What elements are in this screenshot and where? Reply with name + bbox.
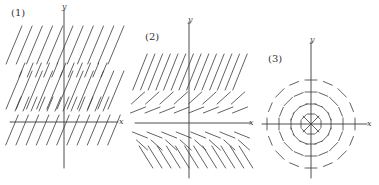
slope-segment [77, 26, 93, 64]
slope-segment [139, 146, 153, 168]
slope-segment [203, 92, 216, 104]
slope-segment [98, 26, 114, 64]
slope-segment [6, 71, 22, 109]
slope-segment [39, 97, 45, 111]
slope-segment [212, 146, 226, 168]
slope-segment [269, 103, 273, 112]
slope-segment [217, 54, 231, 90]
slope-segment [322, 135, 329, 142]
slope-segment [291, 128, 294, 135]
slope-segment [276, 89, 284, 97]
slope-segment [145, 107, 160, 113]
slope-segment [171, 54, 185, 90]
slope-segment [47, 26, 63, 64]
slope-segment [350, 136, 354, 145]
slope-segment [87, 115, 100, 145]
slope-segment [231, 92, 244, 104]
slope-segment [148, 54, 162, 90]
slope-segment [225, 54, 239, 90]
slope-segment [162, 132, 177, 138]
slope-segment [339, 132, 343, 141]
slope-segment [136, 140, 147, 150]
panel-1-label: (1) [11, 8, 25, 18]
slope-segment [77, 115, 90, 145]
slope-segment [26, 26, 42, 64]
slope-segment [315, 141, 322, 144]
panel-3-label: (3) [268, 54, 282, 64]
slope-segment [160, 92, 173, 104]
slope-segment [284, 142, 292, 150]
slope-segment [291, 113, 294, 120]
slope-segment [238, 140, 249, 150]
slope-segment [67, 115, 80, 145]
panel-3-x-axis-label: x [367, 120, 372, 128]
slope-segment [350, 103, 354, 112]
figure-canvas [0, 0, 379, 185]
panel-2-x-axis-label: x [249, 119, 254, 127]
slope-segment [280, 107, 284, 116]
slope-segment [290, 163, 299, 167]
slope-segment [93, 63, 99, 77]
slope-segment [98, 71, 114, 109]
slope-segment [174, 107, 189, 113]
slope-segment [85, 63, 91, 77]
slope-segment [164, 54, 178, 90]
slope-segment [218, 107, 233, 113]
slope-segment [329, 142, 337, 150]
panel-3-y-axis-label: y [310, 36, 315, 44]
slope-segment [67, 26, 83, 64]
slope-segment [67, 71, 83, 109]
slope-segment [160, 107, 175, 113]
panel-1-x-axis-label: x [119, 118, 124, 126]
slope-segment [151, 140, 162, 150]
slope-segment [131, 107, 146, 113]
slope-segment [88, 26, 104, 64]
slope-segment [203, 107, 218, 113]
slope-segment [239, 146, 253, 168]
slope-segment [179, 54, 193, 90]
slope-segment [300, 104, 307, 107]
slope-segment [133, 54, 147, 90]
slope-segment [203, 146, 217, 168]
panel-1-direction-field [6, 10, 124, 168]
slope-segment [224, 140, 235, 150]
slope-segment [26, 115, 39, 145]
panel-2-y-axis-label: y [188, 16, 193, 24]
slope-segment [16, 115, 29, 145]
slope-segment [174, 92, 187, 104]
slope-segment [322, 106, 329, 113]
slope-segment [57, 115, 70, 145]
slope-segment [140, 54, 154, 90]
slope-segment [47, 115, 60, 145]
slope-segment [133, 132, 148, 138]
slope-segment [55, 97, 61, 111]
slope-segment [147, 132, 162, 138]
slope-segment [284, 97, 292, 105]
slope-segment [339, 107, 343, 116]
slope-segment [71, 97, 77, 111]
slope-segment [328, 113, 331, 120]
slope-segment [15, 97, 21, 111]
slope-segment [148, 146, 162, 168]
slope-segment [108, 71, 124, 109]
slope-segment [87, 97, 93, 111]
slope-segment [217, 92, 230, 104]
slope-segment [235, 132, 250, 138]
slope-segment [221, 146, 235, 168]
slope-segment [166, 140, 177, 150]
slope-segment [98, 115, 111, 145]
slope-segment [269, 136, 273, 145]
slope-segment [290, 82, 299, 86]
slope-segment [300, 141, 307, 144]
slope-segment [157, 146, 171, 168]
slope-segment [23, 97, 29, 111]
slope-segment [294, 152, 303, 156]
slope-segment [191, 132, 206, 138]
slope-segment [189, 107, 204, 113]
slope-segment [319, 152, 328, 156]
slope-segment [276, 151, 284, 159]
slope-segment [31, 97, 37, 111]
slope-segment [205, 132, 220, 138]
figure-isoclines: (1) y x (2) y x (3) y x [0, 0, 379, 185]
slope-segment [47, 71, 63, 109]
